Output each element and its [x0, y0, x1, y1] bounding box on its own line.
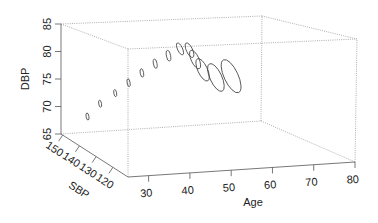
z-tick-label: 70	[41, 100, 53, 112]
data-point	[85, 113, 89, 121]
data-point	[126, 79, 130, 87]
x-axis-line	[128, 162, 355, 177]
box-edge	[261, 121, 355, 162]
y-tick	[92, 157, 96, 163]
y-axis-title: SBP	[67, 179, 92, 201]
box-edge	[61, 24, 128, 49]
x-tick-label: 60	[264, 178, 277, 191]
box-edge	[261, 16, 262, 121]
z-axis-title: DBP	[19, 68, 31, 91]
z-tick-label: 85	[41, 18, 53, 30]
x-tick-label: 70	[305, 175, 318, 188]
data-point	[153, 59, 158, 69]
y-tick-label: 120	[94, 171, 116, 191]
data-point	[175, 42, 185, 56]
data-point	[217, 57, 245, 96]
data-point	[139, 68, 144, 77]
x-tick-label: 40	[181, 184, 194, 197]
data-point	[113, 89, 117, 97]
box-edge	[61, 16, 262, 24]
z-tick-label: 75	[41, 73, 53, 85]
x-tick-label: 30	[140, 186, 153, 199]
y-tick	[75, 146, 79, 152]
z-tick-label: 80	[41, 45, 53, 57]
x-tick-label: 50	[222, 181, 235, 194]
plot-box	[61, 16, 357, 177]
x-tick-label: 80	[346, 173, 359, 186]
z-tick-labels: 6570758085	[41, 18, 53, 140]
data-point	[193, 57, 212, 83]
box-edge	[262, 16, 357, 39]
data-point	[165, 50, 171, 61]
data-point	[98, 100, 102, 108]
x-axis-title: Age	[243, 196, 263, 208]
y-tick	[109, 167, 113, 173]
box-edge	[355, 39, 357, 162]
scatter3d-chart: 6570758085 150140130120 304050607080 DBP…	[0, 0, 378, 223]
box-edge	[128, 39, 357, 49]
axes	[55, 24, 355, 182]
y-tick	[59, 135, 63, 141]
data-points	[85, 42, 245, 121]
box-edge	[61, 121, 261, 134]
